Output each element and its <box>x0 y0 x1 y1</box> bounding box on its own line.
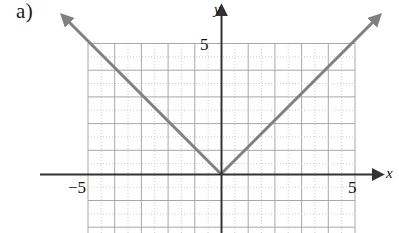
graph-right-ray <box>221 22 374 175</box>
x-tick-label-negative-5: −5 <box>68 179 86 196</box>
y-axis-label: y <box>214 2 221 17</box>
figure-canvas: a) y x 5 5 −5 <box>0 0 399 233</box>
graph-left-ray <box>69 22 222 175</box>
part-label: a) <box>16 1 33 22</box>
x-axis-label: x <box>386 166 393 181</box>
x-tick-label-5: 5 <box>348 179 357 196</box>
y-tick-label-5: 5 <box>200 36 209 53</box>
